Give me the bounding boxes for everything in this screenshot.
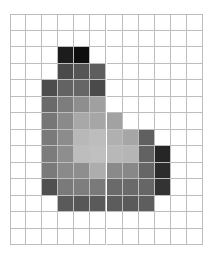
grid-cell	[90, 97, 106, 114]
grid-cell	[187, 64, 203, 81]
grid-cell	[139, 31, 155, 48]
grid-cell	[58, 113, 74, 130]
grid-cell	[90, 179, 106, 196]
grid-cell	[139, 97, 155, 114]
grid-cell	[42, 146, 58, 163]
grid-cell	[139, 47, 155, 64]
grid-cell	[155, 31, 171, 48]
grid-cell	[155, 14, 171, 31]
grid-cell	[107, 14, 123, 31]
grid-cell	[187, 196, 203, 213]
grid-cell	[155, 196, 171, 213]
grid-cell	[42, 31, 58, 48]
grid-cell	[42, 80, 58, 97]
grid-cell	[123, 14, 139, 31]
grid-cell	[123, 80, 139, 97]
grid-cell	[58, 80, 74, 97]
grid-cell	[42, 229, 58, 246]
grid-cell	[171, 146, 187, 163]
grid-cell	[107, 80, 123, 97]
grid-cell	[42, 163, 58, 180]
grid-cell	[107, 113, 123, 130]
grid-cell	[171, 97, 187, 114]
grid-cell	[107, 212, 123, 229]
grid-cell	[123, 146, 139, 163]
grid-cell	[74, 113, 90, 130]
grid-cell	[171, 179, 187, 196]
grid-cell	[26, 31, 42, 48]
grid-cell	[58, 31, 74, 48]
grid-cell	[123, 179, 139, 196]
grid-cell	[107, 163, 123, 180]
grid-cell	[123, 31, 139, 48]
grid-cell	[58, 97, 74, 114]
grid-cell	[123, 130, 139, 147]
grid-cell	[171, 130, 187, 147]
grid-cell	[187, 212, 203, 229]
grid-cell	[139, 113, 155, 130]
grid-cell	[10, 113, 26, 130]
grid-cell	[26, 64, 42, 81]
grid-cell	[187, 113, 203, 130]
pixel-grid	[10, 14, 203, 245]
grid-cell	[139, 80, 155, 97]
grid-cell	[58, 196, 74, 213]
grid-cell	[107, 146, 123, 163]
grid-cell	[139, 212, 155, 229]
grid-cell	[58, 146, 74, 163]
grid-cell	[74, 163, 90, 180]
grid-cell	[90, 212, 106, 229]
grid-cell	[26, 47, 42, 64]
grid-cell	[90, 146, 106, 163]
grid-cell	[155, 130, 171, 147]
grid-cell	[10, 130, 26, 147]
grid-cell	[187, 130, 203, 147]
grid-cell	[107, 229, 123, 246]
grid-cell	[155, 163, 171, 180]
grid-cell	[74, 80, 90, 97]
grid-cell	[107, 31, 123, 48]
grid-cell	[26, 196, 42, 213]
grid-cell	[58, 47, 74, 64]
grid-cell	[90, 31, 106, 48]
grid-cell	[171, 80, 187, 97]
grid-cell	[90, 196, 106, 213]
grid-cell	[74, 196, 90, 213]
grid-cell	[74, 14, 90, 31]
grid-cell	[187, 163, 203, 180]
grid-cell	[139, 229, 155, 246]
grid-cell	[74, 212, 90, 229]
grid-cell	[42, 97, 58, 114]
grid-cell	[42, 14, 58, 31]
grid-cell	[10, 14, 26, 31]
grid-cell	[42, 196, 58, 213]
grid-cell	[171, 14, 187, 31]
grid-cell	[123, 196, 139, 213]
grid-cell	[107, 130, 123, 147]
grid-cell	[58, 64, 74, 81]
grid-cell	[10, 47, 26, 64]
grid-cell	[26, 14, 42, 31]
grid-cell	[187, 80, 203, 97]
grid-cell	[90, 47, 106, 64]
grid-cell	[171, 196, 187, 213]
grid-cell	[58, 229, 74, 246]
grid-cell	[187, 31, 203, 48]
grid-cell	[10, 196, 26, 213]
grid-cell	[26, 179, 42, 196]
grid-cell	[90, 130, 106, 147]
grid-cell	[10, 163, 26, 180]
grid-cell	[74, 31, 90, 48]
grid-cell	[26, 229, 42, 246]
grid-cell	[74, 179, 90, 196]
grid-cell	[187, 14, 203, 31]
grid-cell	[10, 179, 26, 196]
grid-cell	[42, 130, 58, 147]
grid-cell	[42, 64, 58, 81]
grid-cell	[74, 64, 90, 81]
grid-cell	[90, 113, 106, 130]
grid-cell	[139, 146, 155, 163]
grid-cell	[187, 97, 203, 114]
grid-cell	[171, 113, 187, 130]
grid-cell	[26, 80, 42, 97]
